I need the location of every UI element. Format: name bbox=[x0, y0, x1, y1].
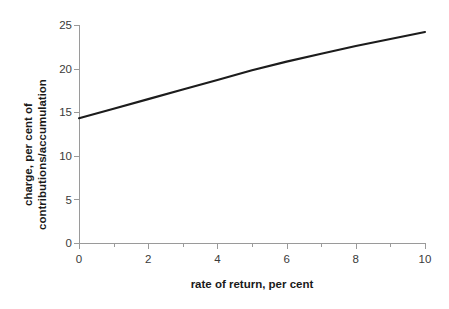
y-tick-mark-group bbox=[74, 26, 79, 244]
y-tick-label: 15 bbox=[59, 106, 72, 118]
data-series-line bbox=[79, 32, 425, 118]
y-tick-label: 25 bbox=[59, 19, 72, 31]
x-tick-label: 0 bbox=[76, 253, 82, 265]
y-tick-label: 10 bbox=[59, 150, 72, 162]
x-tick-label: 2 bbox=[145, 253, 151, 265]
y-tick-label: 5 bbox=[66, 194, 72, 206]
x-tick-label-group: 0246810 bbox=[76, 253, 432, 265]
plot-area: 0510152025 0246810 bbox=[0, 0, 449, 309]
y-tick-label-group: 0510152025 bbox=[59, 19, 72, 249]
x-tick-label: 6 bbox=[283, 253, 289, 265]
x-tick-label: 10 bbox=[419, 253, 432, 265]
x-axis-title: rate of return, per cent bbox=[79, 278, 425, 290]
y-tick-label: 20 bbox=[59, 63, 72, 75]
y-tick-label: 0 bbox=[66, 237, 72, 249]
x-tick-label: 4 bbox=[214, 253, 221, 265]
chart-container: charge, per cent of contributions/accumu… bbox=[0, 0, 449, 309]
x-tick-label: 8 bbox=[353, 253, 359, 265]
